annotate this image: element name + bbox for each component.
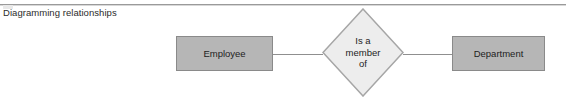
- entity-box-department[interactable]: Department: [452, 36, 545, 71]
- figure-canvas: Diagramming relationships Employee Is a …: [0, 0, 571, 102]
- connector-relationship-to-department: [403, 54, 453, 55]
- relationship-label: Is a member of: [322, 8, 404, 97]
- entity-label-department: Department: [474, 48, 524, 59]
- relationship-diamond-is-a-member-of[interactable]: Is a member of: [322, 8, 404, 97]
- entity-box-employee[interactable]: Employee: [176, 36, 273, 71]
- figure-top-rule: [0, 4, 566, 6]
- connector-employee-to-relationship: [273, 54, 323, 55]
- relationship-label-line-2: member: [346, 47, 381, 59]
- entity-label-employee: Employee: [203, 48, 245, 59]
- figure-caption: Diagramming relationships: [3, 7, 117, 19]
- relationship-label-line-1: Is a: [355, 35, 370, 47]
- relationship-label-line-3: of: [359, 58, 367, 70]
